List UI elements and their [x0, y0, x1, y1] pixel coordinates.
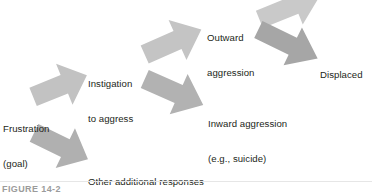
node-inward-line1: Inward aggression [208, 118, 287, 130]
node-label-outward-aggression: Outward aggression [207, 9, 254, 102]
arrow-instigation-to-inward [136, 59, 212, 125]
node-instigation-line1: Instigation [88, 78, 133, 90]
node-label-other-responses: Other additional responses (e.g., withdr… [88, 153, 204, 196]
figure-caption: FIGURE 14-2 [2, 184, 61, 194]
node-inward-line2: (e.g., suicide) [208, 153, 287, 165]
node-outward-line2: aggression [207, 67, 254, 79]
node-displaced-line1: Displaced [320, 69, 363, 81]
node-frustration-line2: (goal) [3, 158, 49, 170]
caption-divider [0, 181, 372, 182]
node-label-displaced: Displaced [320, 46, 363, 104]
node-frustration-line1: Frustration [3, 123, 49, 135]
figure-diagram: Frustration (goal) Instigation to aggres… [0, 0, 372, 196]
node-instigation-line2: to aggress [88, 113, 133, 125]
node-label-frustration: Frustration (goal) [3, 100, 49, 193]
node-label-instigation: Instigation to aggress [88, 55, 133, 148]
arrow-instigation-to-outward [136, 9, 211, 74]
node-outward-line1: Outward [207, 32, 254, 44]
node-label-inward-aggression: Inward aggression (e.g., suicide) [208, 95, 287, 188]
